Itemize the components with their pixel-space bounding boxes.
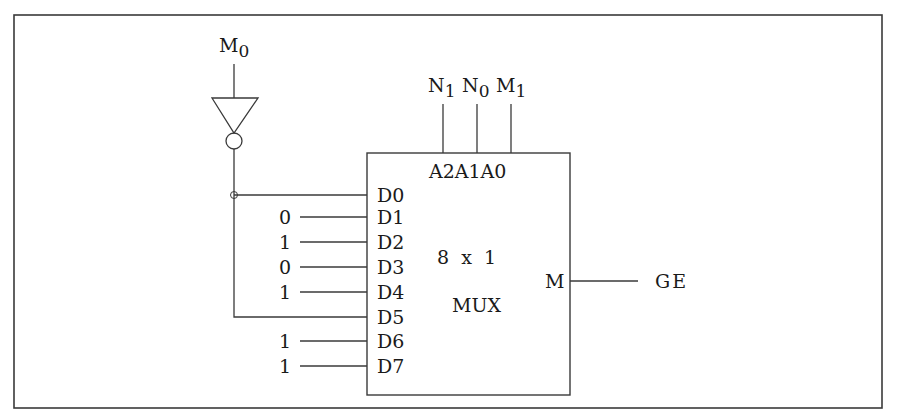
signal-name: M — [496, 74, 515, 96]
pin-d1: D1 — [377, 208, 404, 227]
input-value-d7: 1 — [279, 357, 291, 376]
signal-subscript: 1 — [515, 81, 526, 101]
signal-subscript: 0 — [479, 81, 490, 101]
pin-d7: D7 — [377, 357, 404, 376]
signal-name: N — [428, 74, 445, 96]
pin-d5: D5 — [377, 308, 404, 327]
mux-title: 8 x 1 — [437, 248, 496, 267]
pin-d4: D4 — [377, 283, 404, 302]
signal-name: M — [219, 34, 238, 56]
input-value-d1: 0 — [279, 208, 291, 227]
circuit-canvas — [0, 0, 898, 417]
pin-d6: D6 — [377, 332, 404, 351]
pin-d0: D0 — [377, 186, 404, 205]
input-value-d3: 0 — [279, 258, 291, 277]
output-pin-label: M — [545, 272, 564, 291]
output-signal-label: GE — [655, 272, 688, 291]
select-pins-label: A2A1A0 — [429, 162, 506, 181]
input-value-d4: 1 — [279, 283, 291, 302]
input-value-d2: 1 — [279, 233, 291, 252]
pin-d2: D2 — [377, 233, 404, 252]
signal-name: N — [462, 74, 479, 96]
signal-subscript: 0 — [238, 41, 249, 61]
inverter-input-label: M0 — [219, 36, 249, 60]
input-value-d6: 1 — [279, 332, 291, 351]
outer-frame — [14, 15, 882, 408]
signal-subscript: 1 — [445, 81, 456, 101]
inverter-bubble-icon — [226, 133, 242, 149]
inverter-triangle-icon — [212, 98, 258, 133]
select-label-a1: N0 — [462, 76, 489, 100]
mux-subtitle: MUX — [452, 296, 501, 315]
pin-d3: D3 — [377, 258, 404, 277]
select-label-a2: N1 — [428, 76, 455, 100]
select-label-a0: M1 — [496, 76, 526, 100]
